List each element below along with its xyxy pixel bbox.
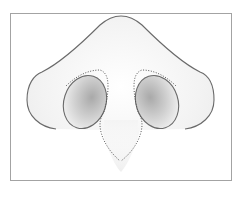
nose-diagram: [0, 0, 243, 197]
